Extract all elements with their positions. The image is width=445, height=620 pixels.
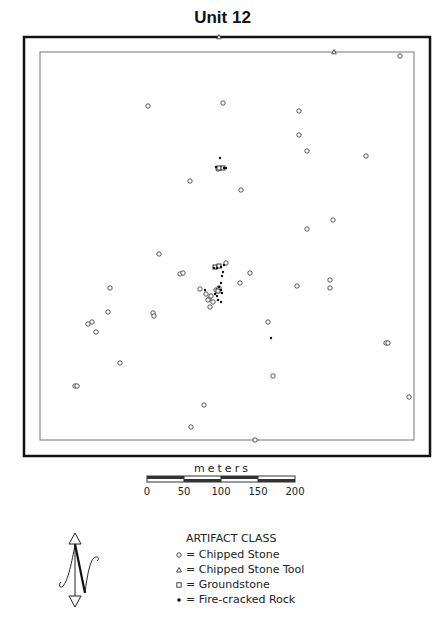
fire-cracked-rock-marker <box>217 299 219 301</box>
chipped-stone-marker <box>407 395 411 399</box>
legend-item-chipped-stone-tool: = Chipped Stone Tool <box>174 562 304 577</box>
inner-frame <box>40 52 414 440</box>
scale-tick-150: 150 <box>248 486 267 497</box>
chipped-stone-marker <box>146 104 150 108</box>
fire-cracked-rock-marker <box>214 293 216 295</box>
dot-icon <box>174 595 184 605</box>
chipped-stone-marker <box>271 374 275 378</box>
fire-cracked-rock-marker <box>223 264 225 266</box>
legend-title: ARTIFACT CLASS <box>174 531 304 546</box>
groundstone-marker <box>216 289 220 293</box>
chipped-stone-layer <box>73 54 411 442</box>
fire-cracked-rock-marker <box>218 286 220 288</box>
chipped-stone-marker <box>266 320 270 324</box>
chipped-stone-marker <box>198 287 202 291</box>
chipped-stone-marker <box>86 322 90 326</box>
chipped-stone-marker <box>364 154 368 158</box>
scale-tick-0: 0 <box>144 486 150 497</box>
chipped-stone-marker <box>118 361 122 365</box>
chipped-stone-marker <box>297 109 301 113</box>
legend-item-groundstone: = Groundstone <box>174 577 304 592</box>
chipped-stone-marker <box>157 252 161 256</box>
chipped-stone-marker <box>152 314 156 318</box>
fire-cracked-rock-marker <box>220 301 222 303</box>
circle-icon <box>174 550 184 560</box>
fire-cracked-rock-marker <box>219 157 221 159</box>
fire-cracked-rock-marker <box>221 275 223 277</box>
legend: ARTIFACT CLASS = Chipped Stone = Chipped… <box>174 531 304 607</box>
chipped-stone-marker <box>239 188 243 192</box>
chipped-stone-marker <box>297 133 301 137</box>
groundstone-layer <box>213 166 225 293</box>
chipped-stone-marker <box>206 298 210 302</box>
chipped-stone-marker <box>295 284 299 288</box>
chipped-stone-marker <box>305 227 309 231</box>
fire-cracked-rock-marker <box>220 289 222 291</box>
legend-label: = Chipped Stone Tool <box>186 562 304 577</box>
chipped-stone-marker <box>328 286 332 290</box>
chipped-stone-marker <box>253 438 257 442</box>
chipped-stone-marker <box>221 101 225 105</box>
fire-cracked-rock-marker <box>221 292 223 294</box>
chipped-stone-marker <box>181 271 185 275</box>
square-icon <box>174 580 184 590</box>
scale-segment <box>147 476 184 479</box>
outer-frame <box>24 37 430 456</box>
scale-segment <box>184 479 221 482</box>
legend-label: = Groundstone <box>186 577 270 592</box>
scale-bar <box>147 476 295 482</box>
chipped-stone-marker <box>248 271 252 275</box>
chipped-stone-marker <box>208 305 212 309</box>
chipped-stone-marker <box>209 294 213 298</box>
scale-segment <box>258 479 295 482</box>
fire-cracked-rock-marker <box>220 282 222 284</box>
chipped-stone-marker <box>386 341 390 345</box>
chipped-stone-marker <box>108 286 112 290</box>
chipped-stone-marker <box>75 384 79 388</box>
chipped-stone-marker <box>204 292 208 296</box>
scale-tick-100: 100 <box>211 486 230 497</box>
chipped-stone-tool-marker <box>217 35 222 39</box>
fire-cracked-rock-marker <box>213 267 215 269</box>
chipped-stone-marker <box>238 281 242 285</box>
scale-tick-200: 200 <box>285 486 304 497</box>
legend-item-fire-cracked-rock: = Fire-cracked Rock <box>174 592 304 607</box>
north-arrow-icon <box>58 531 108 609</box>
legend-label: = Fire-cracked Rock <box>186 592 295 607</box>
chipped-stone-marker <box>305 149 309 153</box>
fire-cracked-rock-marker <box>220 266 222 268</box>
scale-unit-label: meters <box>0 462 445 475</box>
fire-cracked-rock-marker <box>204 289 206 291</box>
triangle-icon <box>174 565 184 575</box>
legend-label: = Chipped Stone <box>186 547 279 562</box>
fire-cracked-rock-marker <box>216 267 218 269</box>
chipped-stone-marker <box>202 403 206 407</box>
fire-cracked-rock-marker <box>215 166 217 168</box>
chipped-stone-marker <box>189 425 193 429</box>
chipped-stone-marker <box>188 179 192 183</box>
chipped-stone-marker <box>398 54 402 58</box>
legend-item-chipped-stone: = Chipped Stone <box>174 547 304 562</box>
chipped-stone-tool-marker <box>332 50 337 54</box>
fire-cracked-rock-layer <box>204 157 272 339</box>
chipped-stone-marker <box>211 300 215 304</box>
chipped-stone-marker <box>331 218 335 222</box>
chipped-stone-marker <box>106 310 110 314</box>
fire-cracked-rock-marker <box>270 337 272 339</box>
groundstone-marker <box>217 166 221 170</box>
fire-cracked-rock-marker <box>216 295 218 297</box>
fire-cracked-rock-marker <box>222 271 224 273</box>
fire-cracked-rock-marker <box>225 167 227 169</box>
scale-tick-50: 50 <box>178 486 191 497</box>
artifact-map <box>0 0 445 620</box>
scale-segment <box>221 476 258 479</box>
chipped-stone-marker <box>94 330 98 334</box>
chipped-stone-marker <box>328 278 332 282</box>
